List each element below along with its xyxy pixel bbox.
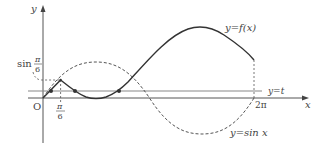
intersection-point <box>117 89 121 93</box>
tick-pi-over-6-den: 6 <box>58 112 63 121</box>
x-axis-label: x <box>305 99 311 110</box>
curve-f-x <box>43 27 254 99</box>
origin-label: O <box>33 101 41 112</box>
label-sin-x: y=sin x <box>229 127 268 138</box>
tick-pi-over-6-num: π <box>56 102 63 111</box>
label-f-x: y=f(x) <box>224 22 256 33</box>
tick-sin-den: 6 <box>35 65 40 74</box>
y-axis <box>41 5 46 143</box>
tick-2pi: 2π <box>255 100 267 110</box>
function-graph: y x O π 6 2π sin π 6 y=f(x) y=sin x y=t <box>0 0 318 148</box>
intersection-point <box>49 89 53 93</box>
intersection-point <box>73 89 77 93</box>
tick-sin-prefix: sin <box>17 58 32 69</box>
y-axis-label: y <box>30 3 37 14</box>
label-y-equals-t: y=t <box>267 86 285 96</box>
x-axis <box>28 96 309 101</box>
tick-sin-num: π <box>34 55 41 64</box>
y-axis-arrow-icon <box>41 5 46 12</box>
peak-point <box>59 79 61 81</box>
